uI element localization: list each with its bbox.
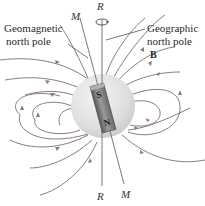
earth-magnetic-field-diagram: S N Geomagnetic north pole Geographic no… [0,0,205,206]
geomagnetic-label-line2: north pole [6,35,51,47]
geographic-label-line1: Geographic [147,22,198,34]
magnetic-axis-top-label: M [70,10,81,22]
rotation-axis-top-label: R [96,0,104,12]
field-b-label: B [150,49,157,60]
rotation-arrow-icon [96,19,109,25]
geomagnetic-label-line1: Geomagnetic [4,22,63,34]
geographic-label-line2: north pole [147,35,192,47]
rotation-axis-bottom-label: R [96,190,104,202]
magnetic-axis-bottom-label: M [120,188,131,200]
